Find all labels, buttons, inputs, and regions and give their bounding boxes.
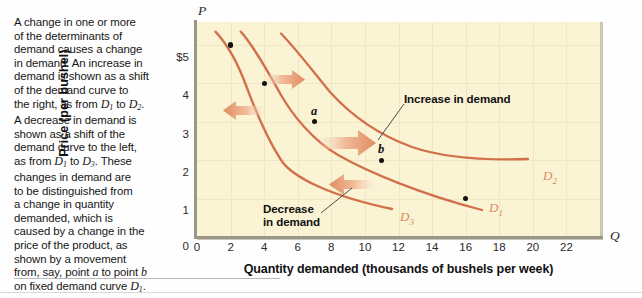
decrease-line-1: Decrease [263,202,314,215]
x-tick-2: 2 [216,241,246,253]
y-axis-line [194,20,197,239]
gridline-h-1 [197,199,600,200]
x-tick-10: 10 [350,241,380,253]
y-axis-symbol: P [198,3,206,19]
point-a-label: a [311,104,317,119]
gridline-v-20 [533,22,534,237]
gridline-v-22 [566,22,567,237]
demand-shift-chart: P Q $5 4 3 2 1 0 0 2 4 6 8 10 12 14 16 1… [0,0,642,298]
gridline-v-2 [231,22,232,237]
plot-area [197,22,600,237]
x-tick-16: 16 [451,241,481,253]
x-axis-line [194,236,603,239]
x-tick-20: 20 [518,241,548,253]
y-tick-4: 4 [155,89,189,101]
gridline-v-16 [466,22,467,237]
x-tick-6: 6 [283,241,313,253]
gridline-h-4 [197,83,600,84]
gridline-h-2 [197,160,600,161]
x-tick-22: 22 [551,241,581,253]
y-axis-title: Price (per bushel) [57,23,71,183]
gridline-v-8 [331,22,332,237]
curve-label-d2: D2 [543,168,557,186]
x-tick-8: 8 [316,241,346,253]
gridline-h-3 [197,122,600,123]
decrease-line-2: in demand [263,215,320,228]
gridline-h-5 [197,45,600,46]
figure-root: A change in one or more of the determina… [0,0,642,298]
gridline-v-14 [432,22,433,237]
point-d1-upper [262,81,267,86]
curve-label-d1: D1 [489,200,503,218]
decrease-in-demand-label: Decrease in demand [263,202,320,228]
gridline-v-10 [365,22,366,237]
y-tick-5: $5 [155,51,189,63]
gridline-v-12 [399,22,400,237]
x-tick-18: 18 [484,241,514,253]
x-tick-4: 4 [249,241,279,253]
y-tick-2: 2 [155,166,189,178]
y-tick-1: 1 [155,204,189,216]
x-tick-14: 14 [417,241,447,253]
point-d3-upper [228,42,233,47]
point-b-label: b [378,142,384,157]
x-tick-12: 12 [384,241,414,253]
x-axis-title: Quantity demanded (thousands of bushels … [197,262,600,276]
x-axis-symbol: Q [610,228,620,244]
y-tick-3: 3 [155,128,189,140]
increase-in-demand-label: Increase in demand [404,92,510,105]
curve-label-d3: D3 [400,209,414,227]
x-tick-0: 0 [182,241,212,253]
